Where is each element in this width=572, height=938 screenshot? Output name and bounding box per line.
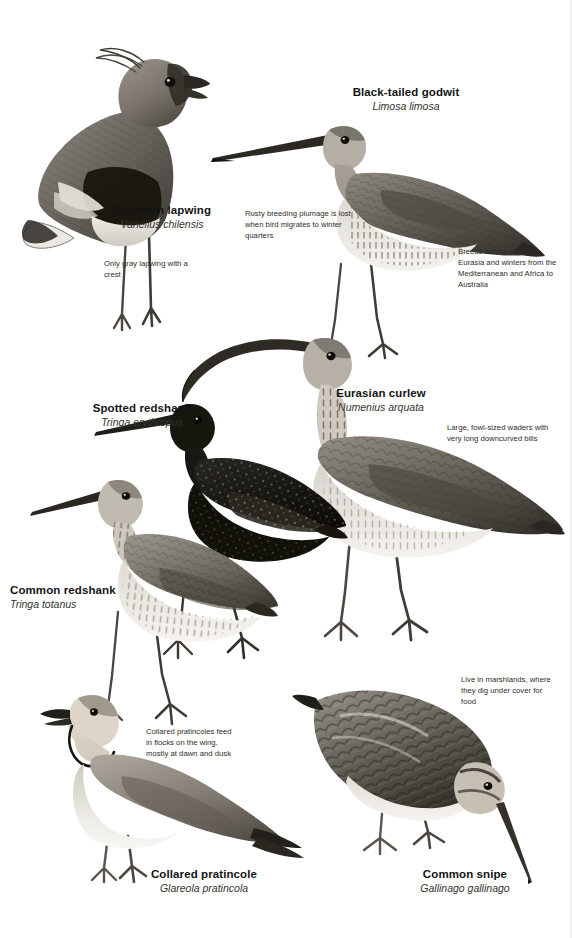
species-label-eurasian-curlew: Eurasian curlew Numenius arquata (326, 387, 436, 413)
species-common-name: Common redshank (10, 584, 150, 598)
species-common-name: Eurasian curlew (326, 387, 436, 401)
annotation-note-pratincole: Collared pratincoles feed in flocks on t… (146, 726, 236, 759)
annotation-note-curlew: Large, fowl-sized waders with very long … (447, 422, 565, 444)
species-label-spotted-redshank: Spotted redshank Tringa erythropus (86, 402, 198, 428)
species-latin-name: Tringa erythropus (86, 416, 198, 428)
species-latin-name: Gallinago gallinago (404, 882, 526, 894)
species-common-name: Spotted redshank (86, 402, 198, 416)
species-latin-name: Vanellus chilensis (98, 218, 226, 230)
illustration-collared-pratincole (18, 668, 308, 898)
species-latin-name: Limosa limosa (336, 100, 476, 112)
species-common-name: Black-tailed godwit (336, 86, 476, 100)
species-latin-name: Numenius arquata (326, 401, 436, 413)
species-latin-name: Glareola pratincola (145, 882, 263, 894)
species-common-name: Southern lapwing (98, 204, 226, 218)
annotation-note-godwit-plumage: Rusty breeding plumage is lost when bird… (245, 208, 363, 241)
annotation-note-snipe: Live in marshlands, where they dig under… (461, 674, 551, 707)
annotation-note-godwit-range: Breeds across northern Eurasia and winte… (458, 246, 564, 291)
field-guide-plate: Southern lapwing Vanellus chilensis Blac… (0, 0, 572, 938)
annotation-note-lapwing: Only gray lapwing with a crest (104, 258, 204, 280)
illustration-southern-lapwing (18, 32, 208, 332)
species-label-black-tailed-godwit: Black-tailed godwit Limosa limosa (336, 86, 476, 112)
species-label-southern-lapwing: Southern lapwing Vanellus chilensis (98, 204, 226, 230)
species-common-name: Collared pratincole (145, 868, 263, 882)
species-label-common-redshank: Common redshank Tringa totanus (10, 584, 150, 610)
species-label-collared-pratincole: Collared pratincole Glareola pratincola (145, 868, 263, 894)
species-common-name: Common snipe (404, 868, 526, 882)
species-label-common-snipe: Common snipe Gallinago gallinago (404, 868, 526, 894)
illustration-eurasian-curlew (145, 322, 565, 652)
species-latin-name: Tringa totanus (10, 598, 150, 610)
